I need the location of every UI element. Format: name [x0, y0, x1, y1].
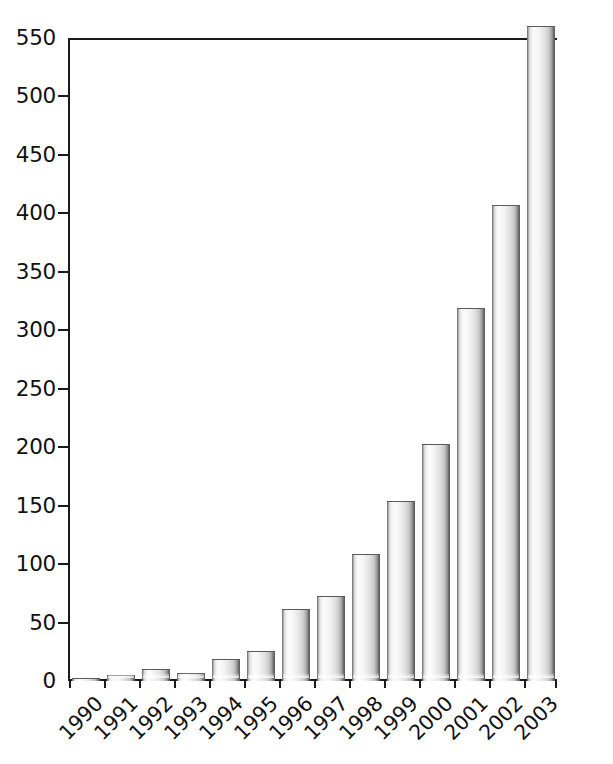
x-axis-tick [555, 681, 557, 688]
bar-1994 [212, 659, 240, 681]
bars-layer [0, 0, 613, 764]
bar-1993 [177, 673, 205, 681]
bar-2001 [457, 308, 485, 681]
bar-1991 [107, 675, 135, 681]
bar-1999 [387, 501, 415, 681]
x-axis-tick [419, 681, 421, 688]
bar-1990 [72, 678, 100, 682]
bar-1992 [142, 669, 170, 681]
bar-1998 [352, 554, 380, 681]
x-axis-tick [174, 681, 176, 688]
bar-1997 [317, 596, 345, 681]
x-axis-tick [209, 681, 211, 688]
x-axis-tick [244, 681, 246, 688]
x-axis-tick [314, 681, 316, 688]
x-axis-tick [104, 681, 106, 688]
x-axis-tick [384, 681, 386, 688]
bar-2000 [422, 444, 450, 681]
bar-2002 [492, 205, 520, 681]
bar-1996 [282, 609, 310, 681]
x-axis-tick [454, 681, 456, 688]
x-axis-tick [349, 681, 351, 688]
x-axis-tick [489, 681, 491, 688]
bar-chart: 050100150200250300350400450500550 199019… [0, 0, 613, 764]
x-axis-tick [139, 681, 141, 688]
bar-1995 [247, 651, 275, 681]
bar-2003 [527, 26, 555, 681]
x-axis-tick [69, 681, 71, 688]
x-axis-tick [279, 681, 281, 688]
x-axis-tick [524, 681, 526, 688]
